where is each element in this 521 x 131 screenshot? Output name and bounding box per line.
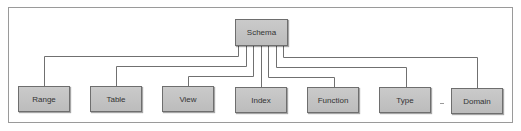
connector-type [277,46,407,87]
connector-table [117,46,247,86]
node-label: Range [32,95,56,104]
node-range: Range [18,86,70,112]
node-table: Table [90,86,142,112]
ellipsis-mark [440,103,444,104]
connector-function [269,46,335,87]
node-label: Table [106,95,125,104]
node-label: Index [251,96,271,105]
node-domain: Domain [451,88,503,114]
node-label: Type [396,96,413,105]
node-label: View [179,95,196,104]
node-label: Function [318,96,349,105]
node-view: View [162,86,214,112]
node-label: Schema [247,28,276,37]
node-index: Index [235,87,287,113]
node-type: Type [379,87,431,113]
node-function: Function [307,87,359,113]
node-label: Domain [463,97,491,106]
node-schema: Schema [235,19,288,46]
